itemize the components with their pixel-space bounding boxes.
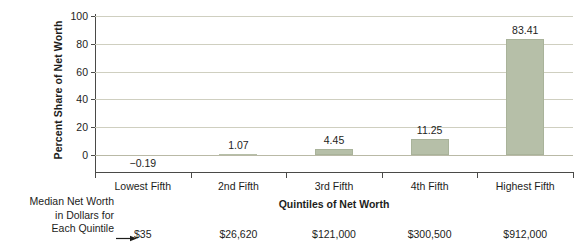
- gridline: [95, 99, 573, 100]
- bar-value-label: 83.41: [512, 24, 538, 36]
- gridline: [95, 44, 573, 45]
- y-axis-tick-mark: [91, 44, 95, 45]
- y-axis-tick-label: 0: [82, 149, 88, 161]
- bar-value-label: 11.25: [417, 124, 443, 136]
- median-net-worth-value: $35: [134, 228, 152, 240]
- bar: [411, 139, 449, 155]
- x-axis-category-label: Lowest Fifth: [114, 180, 171, 192]
- y-axis-title: Percent Share of Net Worth: [52, 0, 64, 180]
- x-axis-category-label: Highest Fifth: [496, 180, 555, 192]
- median-note-line-1: Median Net Worth: [6, 195, 114, 209]
- gridline: [95, 72, 573, 73]
- plot-area: 020406080100−0.191.074.4511.2583.41: [95, 16, 573, 155]
- x-axis-category-label: 2nd Fifth: [218, 180, 259, 192]
- median-net-worth-value: $912,000: [503, 228, 547, 240]
- median-net-worth-value: $121,000: [312, 228, 356, 240]
- y-axis-tick-label: 20: [76, 121, 88, 133]
- x-axis-tick-mark: [477, 172, 478, 178]
- x-axis-tick-mark: [95, 172, 96, 178]
- bar-value-label: −0.19: [130, 157, 157, 169]
- x-axis-tick-mark: [573, 172, 574, 178]
- x-axis-title: Quintiles of Net Worth: [95, 198, 573, 210]
- y-axis-tick-label: 80: [76, 38, 88, 50]
- y-axis-tick-mark: [91, 16, 95, 17]
- median-net-worth-value: $300,500: [408, 228, 452, 240]
- bar: [506, 39, 544, 155]
- x-axis-tick-mark: [382, 172, 383, 178]
- x-axis-tick-mark: [286, 172, 287, 178]
- median-note-line-3: Each Quintile: [6, 222, 114, 236]
- chart-figure: Percent Share of Net Worth 020406080100−…: [0, 0, 585, 251]
- y-axis-tick-mark: [91, 127, 95, 128]
- zero-baseline: [95, 155, 573, 156]
- x-axis-tick-mark: [191, 172, 192, 178]
- median-note-line-2: in Dollars for: [6, 209, 114, 223]
- median-net-worth-value: $26,620: [219, 228, 257, 240]
- x-axis-category-label: 3rd Fifth: [315, 180, 354, 192]
- median-net-worth-note: Median Net Worth in Dollars for Each Qui…: [6, 195, 114, 236]
- bar-value-label: 4.45: [324, 134, 344, 146]
- y-axis-tick-mark: [91, 99, 95, 100]
- y-axis-tick-label: 60: [76, 66, 88, 78]
- y-axis-tick-label: 100: [70, 10, 88, 22]
- x-axis-line: [95, 172, 574, 173]
- gridline: [95, 16, 573, 17]
- y-axis-tick-label: 40: [76, 93, 88, 105]
- x-axis-category-label: 4th Fifth: [411, 180, 449, 192]
- gridline: [95, 127, 573, 128]
- y-axis-tick-mark: [91, 72, 95, 73]
- bar-value-label: 1.07: [228, 139, 248, 151]
